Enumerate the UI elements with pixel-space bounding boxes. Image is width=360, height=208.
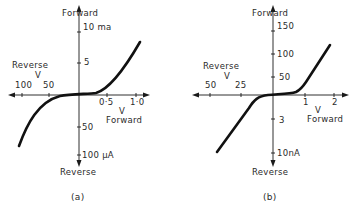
arrow-right-icon bbox=[342, 93, 349, 98]
a-x-left-unit: V bbox=[35, 71, 41, 80]
b-y-bottom-label: Reverse bbox=[252, 168, 288, 177]
figure-a-curve bbox=[19, 42, 140, 146]
arrow-left-icon bbox=[8, 93, 15, 98]
b-y-tick-3: 3 bbox=[279, 116, 285, 125]
a-y-tick-50: 50 bbox=[82, 123, 93, 132]
arrow-down-icon bbox=[271, 160, 276, 167]
a-x-right-label: Forward bbox=[106, 116, 142, 125]
arrow-down-icon bbox=[77, 160, 82, 167]
a-y-top-label: Forward bbox=[62, 9, 98, 18]
b-x-left-unit: V bbox=[224, 72, 230, 81]
a-y-tick-5: 5 bbox=[84, 58, 90, 67]
a-y-tick-10ma: 10 ma bbox=[83, 23, 112, 32]
arrow-right-icon bbox=[143, 93, 150, 98]
figure-a-caption: (a) bbox=[71, 193, 84, 202]
b-x-left-label: Reverse bbox=[203, 62, 239, 71]
figure-b-axes bbox=[196, 10, 345, 163]
b-x-tick-50: 50 bbox=[205, 81, 216, 90]
a-x-tick-50: 50 bbox=[43, 81, 54, 90]
a-x-tick-100: 100 bbox=[15, 81, 32, 90]
a-y-tick-100ua: 100 μA bbox=[82, 151, 114, 160]
b-x-tick-1: 1 bbox=[303, 98, 309, 107]
b-y-tick-150: 150 bbox=[277, 22, 294, 31]
b-y-top-label: Forward bbox=[252, 9, 288, 18]
arrow-left-icon bbox=[192, 93, 199, 98]
b-x-tick-25: 25 bbox=[235, 81, 246, 90]
a-x-tick-0-5: 0·5 bbox=[99, 98, 113, 107]
b-x-right-label: Forward bbox=[307, 115, 343, 124]
b-y-tick-10na: 10nA bbox=[277, 149, 300, 158]
a-x-left-label: Reverse bbox=[12, 61, 48, 70]
figure-b-caption: (b) bbox=[263, 193, 277, 202]
b-y-tick-50: 50 bbox=[279, 73, 290, 82]
b-y-tick-100: 100 bbox=[277, 50, 294, 59]
b-x-tick-2: 2 bbox=[332, 98, 338, 107]
a-x-tick-1-0: 1·0 bbox=[130, 98, 144, 107]
a-y-bottom-label: Reverse bbox=[60, 168, 96, 177]
